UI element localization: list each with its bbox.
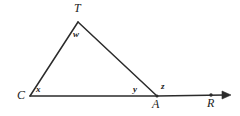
segment-ray-AR <box>157 95 225 96</box>
segment-side-TA <box>78 22 157 96</box>
vertex-label-A: A <box>152 98 159 110</box>
triangle-diagram-canvas <box>0 0 240 116</box>
ray-arrowhead-icon <box>222 91 231 99</box>
vertex-label-C: C <box>17 89 25 101</box>
angle-label-y: y <box>133 85 137 94</box>
angle-label-w: w <box>73 30 79 39</box>
vertex-label-T: T <box>74 2 81 14</box>
angle-label-z: z <box>161 82 165 91</box>
vertex-label-R: R <box>207 97 214 109</box>
angle-label-x: x <box>36 85 41 94</box>
geometry-figure: T C A R w x y z <box>0 0 240 116</box>
